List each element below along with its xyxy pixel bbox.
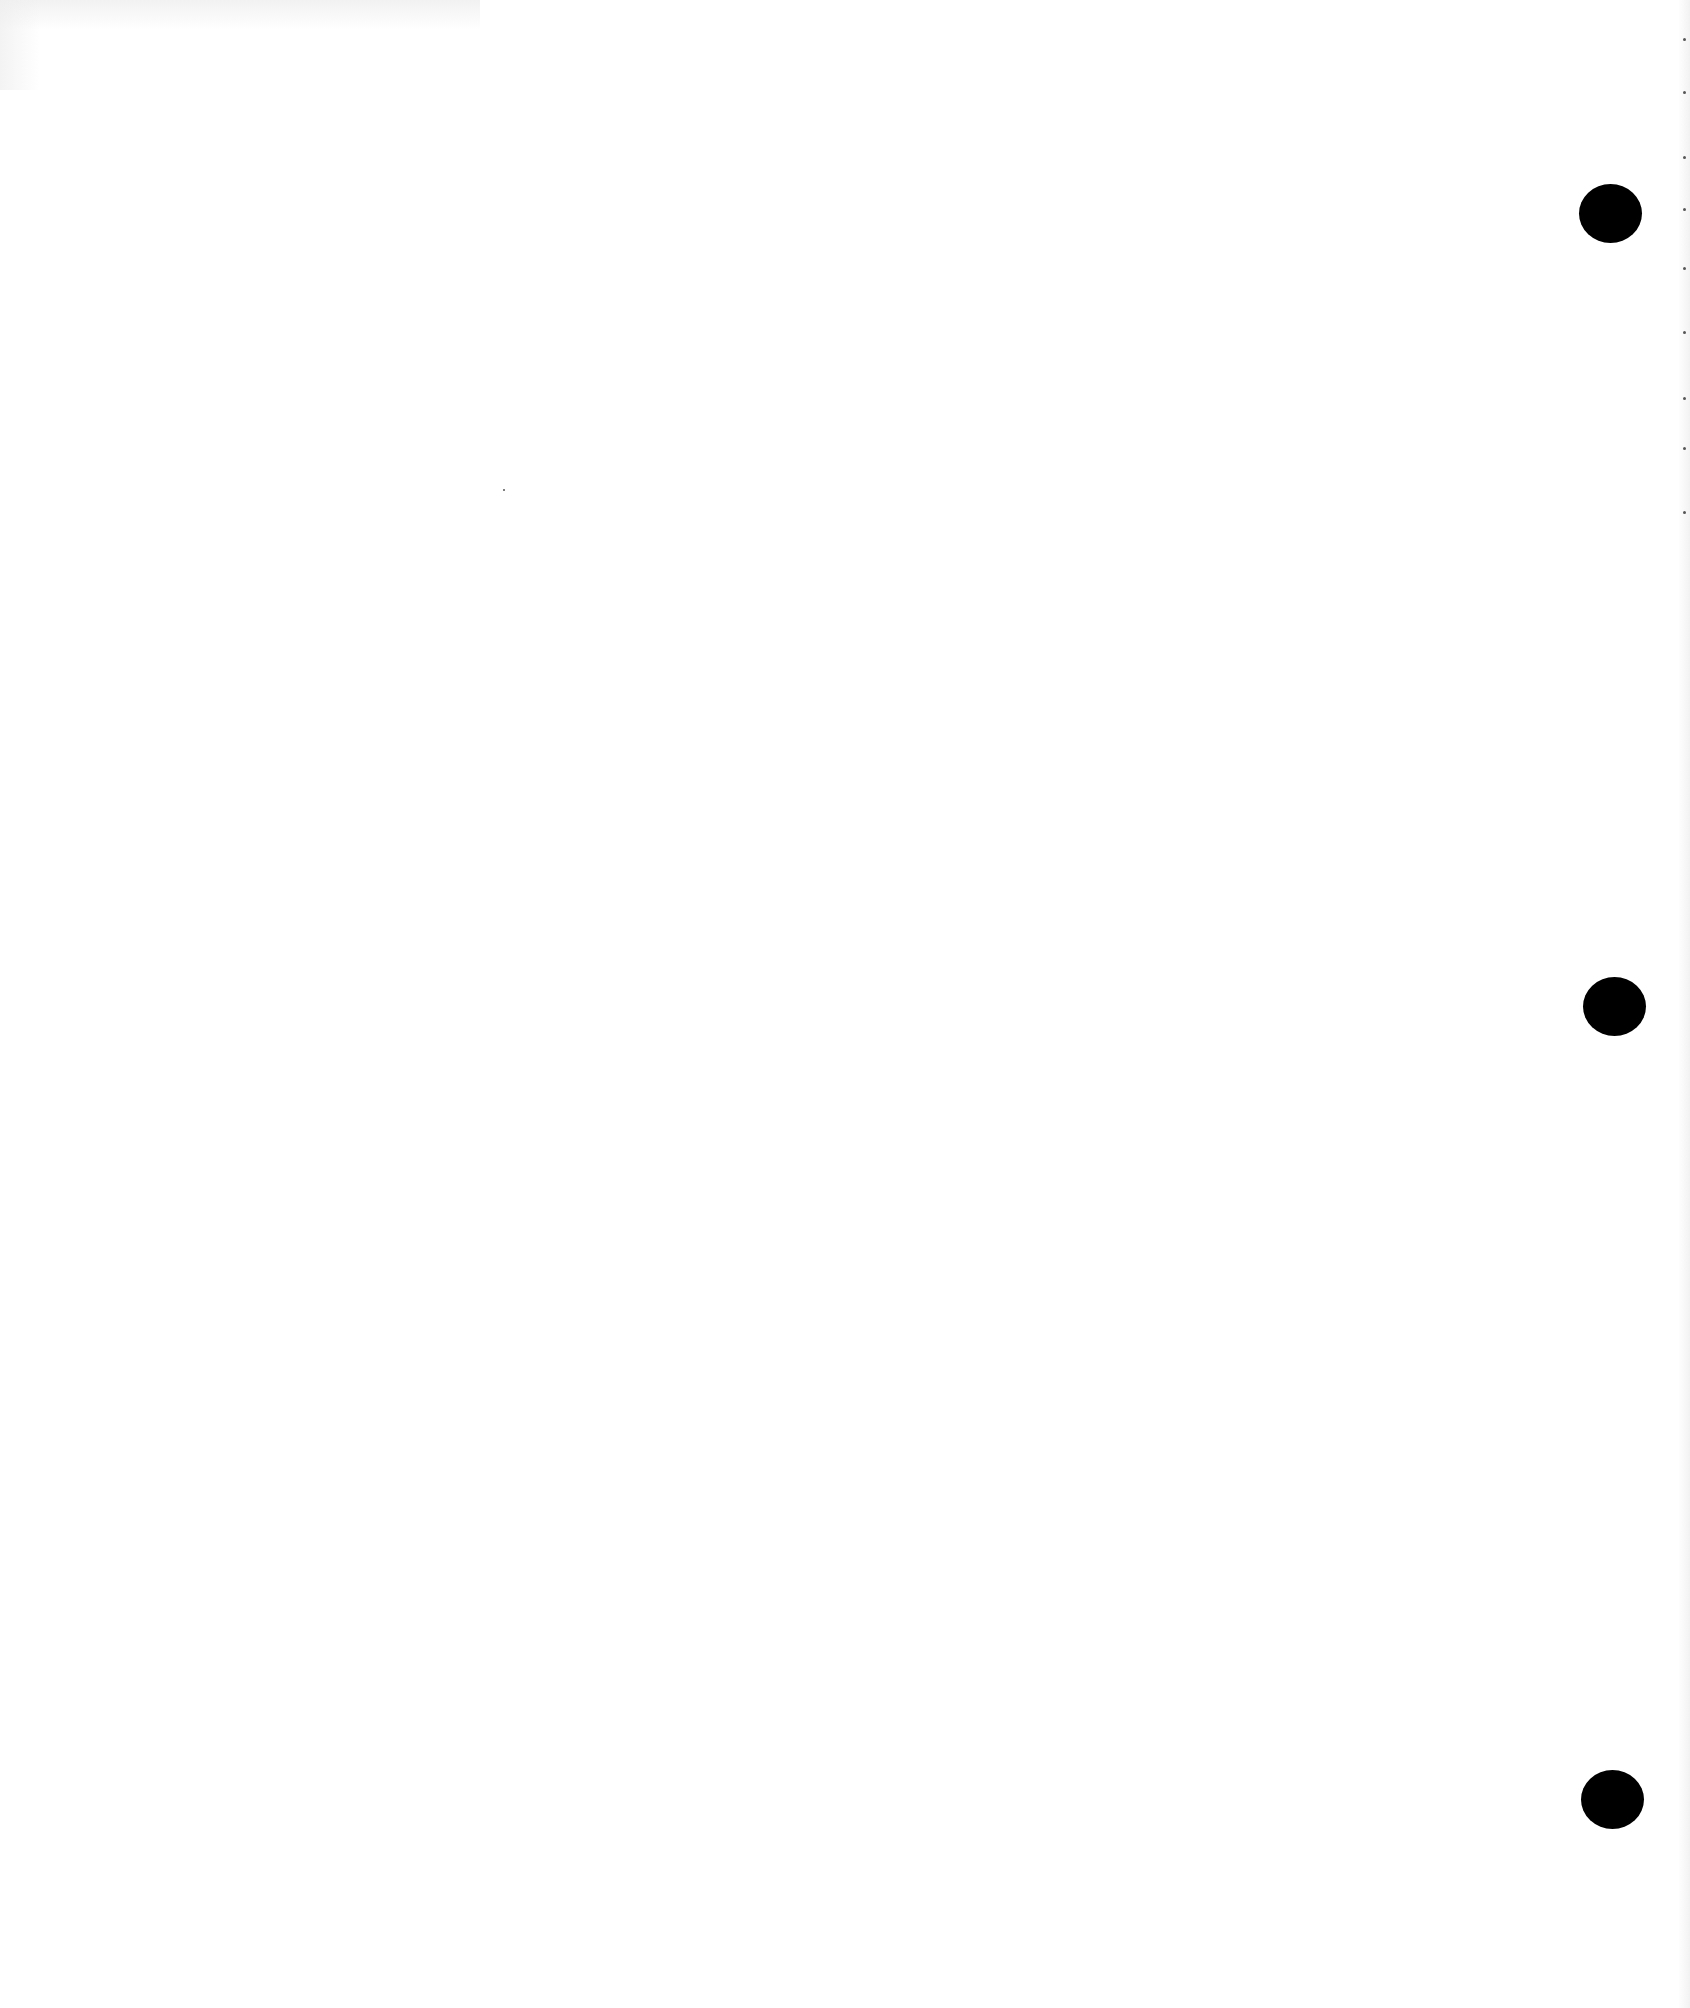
scan-shadow-top (0, 0, 480, 30)
edge-mark (1683, 91, 1686, 94)
scan-shadow-left (0, 0, 40, 90)
edge-mark (1683, 156, 1686, 159)
edge-mark (1683, 331, 1686, 334)
edge-mark (1683, 208, 1686, 211)
dust-speck (503, 489, 505, 491)
punch-hole-top (1579, 184, 1642, 243)
edge-mark (1683, 38, 1686, 41)
punch-hole-middle (1583, 977, 1646, 1036)
edge-mark (1683, 267, 1686, 270)
scanned-page (0, 0, 1690, 2008)
punch-hole-bottom (1581, 1770, 1644, 1829)
page-right-edge (1678, 0, 1690, 2008)
edge-mark (1683, 447, 1686, 450)
edge-mark (1683, 397, 1686, 400)
edge-mark (1683, 511, 1686, 514)
